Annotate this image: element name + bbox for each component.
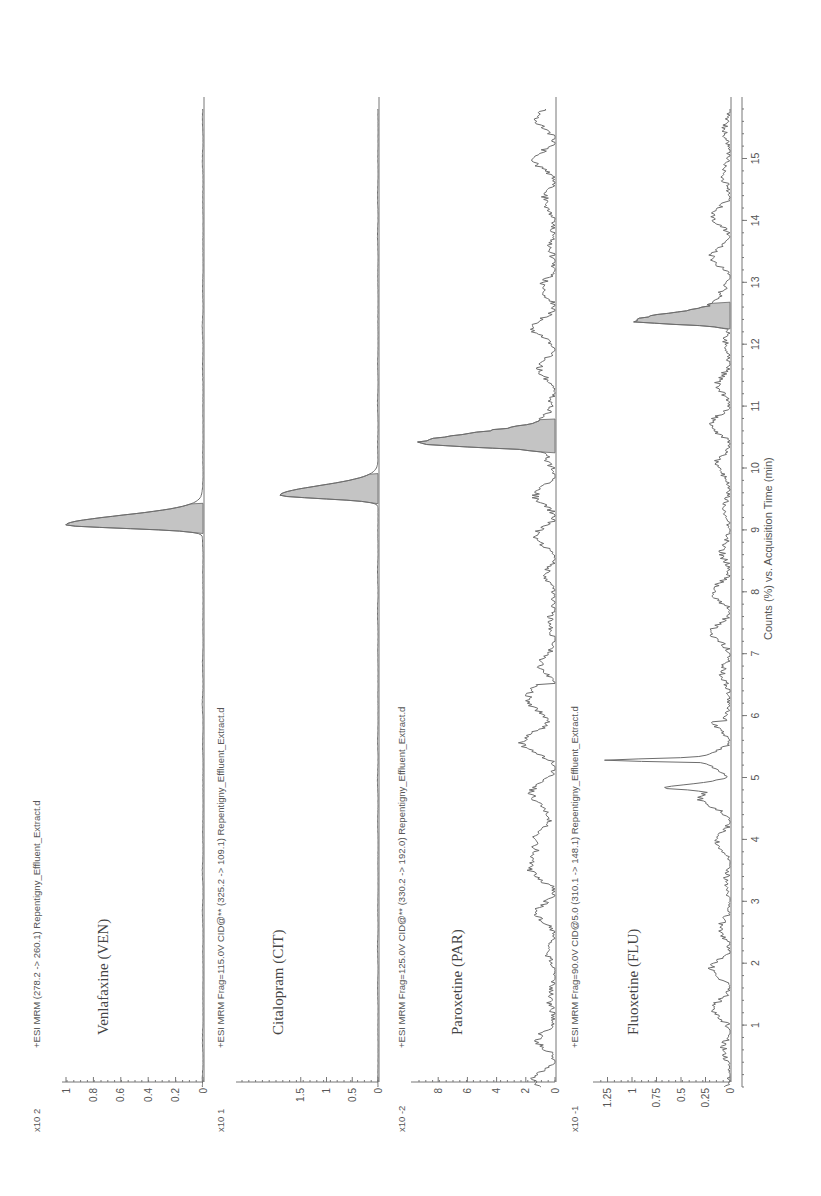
time-tick-label: 8 <box>749 589 761 595</box>
x-axis-label: Counts (%) vs. Acquisition Time (min) <box>762 457 774 640</box>
time-tick-label: 12 <box>749 338 761 350</box>
chromatogram-figure: +ESI MRM (278.2 -> 260.1) Repentigny_Eff… <box>0 0 821 1196</box>
time-tick-label: 4 <box>749 836 761 842</box>
time-tick-label: 6 <box>749 713 761 719</box>
time-tick-label: 10 <box>749 462 761 474</box>
chromatogram-svg: +ESI MRM (278.2 -> 260.1) Repentigny_Eff… <box>0 0 821 1196</box>
y-tick-label: 0.25 <box>700 1088 711 1108</box>
y-tick-label: 1.25 <box>602 1088 613 1108</box>
time-tick-label: 7 <box>749 651 761 657</box>
panels-group: +ESI MRM (278.2 -> 260.1) Repentigny_Eff… <box>31 97 736 1132</box>
y-tick-label: 1 <box>61 1088 72 1094</box>
compound-label: Paroxetine (PAR) <box>449 929 466 1035</box>
chromatogram-trace <box>66 109 203 1087</box>
time-tick-label: 13 <box>749 276 761 288</box>
y-tick-label: 1 <box>321 1088 332 1094</box>
time-axis: 123456789101112131415 <box>742 97 761 1087</box>
y-tick-label: 0.5 <box>676 1088 687 1102</box>
compound-label: Citalopram (CIT) <box>270 930 287 1035</box>
time-tick-label: 9 <box>749 527 761 533</box>
panel-par: +ESI MRM Frag=125.0V CID@** (330.2 -> 19… <box>396 97 561 1132</box>
y-tick-label: 0.4 <box>143 1088 154 1102</box>
scale-label: x10 1 <box>215 1109 226 1132</box>
chromatogram-trace <box>280 109 378 1087</box>
time-tick-label: 14 <box>749 214 761 226</box>
chromatogram-trace <box>605 109 731 1087</box>
panel-header: +ESI MRM Frag=125.0V CID@** (330.2 -> 19… <box>396 707 407 1048</box>
scale-label: x10 2 <box>31 1109 42 1132</box>
y-tick-label: 0.6 <box>115 1088 126 1102</box>
y-tick-label: 2 <box>520 1088 531 1094</box>
panel-header: +ESI MRM (278.2 -> 260.1) Repentigny_Eff… <box>31 801 42 1049</box>
y-tick-label: 0.75 <box>651 1088 662 1108</box>
y-tick-label: 0.5 <box>347 1088 358 1102</box>
y-tick-label: 6 <box>462 1088 473 1094</box>
time-tick-label: 1 <box>749 1022 761 1028</box>
panel-header: +ESI MRM Frag=90.0V CID@5.0 (310.1 -> 14… <box>569 706 580 1048</box>
y-tick-label: 1.5 <box>295 1088 306 1102</box>
y-tick-label: 1 <box>627 1088 638 1094</box>
time-tick-label: 3 <box>749 898 761 904</box>
y-tick-label: 0.2 <box>170 1088 181 1102</box>
panel-flu: +ESI MRM Frag=90.0V CID@5.0 (310.1 -> 14… <box>569 97 736 1132</box>
time-tick-label: 5 <box>749 774 761 780</box>
time-tick-label: 2 <box>749 960 761 966</box>
panel-ven: +ESI MRM (278.2 -> 260.1) Repentigny_Eff… <box>31 97 209 1132</box>
y-tick-label: 0 <box>550 1088 561 1094</box>
y-tick-label: 0.8 <box>88 1088 99 1102</box>
scale-label: x10 -1 <box>569 1106 580 1132</box>
chromatogram-trace <box>418 109 555 1087</box>
time-tick-label: 11 <box>749 400 761 411</box>
y-tick-label: 0 <box>725 1088 736 1094</box>
panel-header: +ESI MRM Frag=115.0V CID@** (325.2 -> 10… <box>215 707 226 1048</box>
y-tick-label: 0 <box>373 1088 384 1094</box>
compound-label: Fluoxetine (FLU) <box>625 929 642 1035</box>
scale-label: x10 -2 <box>396 1106 407 1132</box>
y-tick-label: 0 <box>198 1088 209 1094</box>
compound-label: Venlafaxine (VEN) <box>95 919 112 1035</box>
y-tick-label: 4 <box>491 1088 502 1094</box>
y-tick-label: 8 <box>433 1088 444 1094</box>
panel-cit: +ESI MRM Frag=115.0V CID@** (325.2 -> 10… <box>215 97 384 1132</box>
time-tick-label: 15 <box>749 153 761 165</box>
